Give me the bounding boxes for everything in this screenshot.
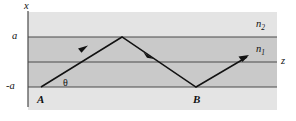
angle-label-theta: θ (63, 78, 68, 88)
upper-cladding-band (28, 12, 277, 37)
lower-cladding-band (28, 87, 277, 110)
axis-label-z: z (281, 56, 285, 67)
waveguide-ray-diagram: x a -a z n2 n1 A B θ (0, 0, 296, 121)
refractive-index-label-n1: n1 (256, 44, 265, 57)
point-label-a: A (37, 94, 44, 105)
axis-label-x: x (24, 1, 29, 12)
tick-label-a: a (12, 31, 17, 42)
diagram-canvas (0, 0, 296, 121)
refractive-index-n2-subscript: 2 (261, 23, 265, 32)
refractive-index-label-n2: n2 (256, 19, 265, 32)
refractive-index-n1-subscript: 1 (261, 48, 265, 57)
point-label-b: B (193, 94, 200, 105)
tick-label-negative-a: -a (6, 81, 15, 92)
